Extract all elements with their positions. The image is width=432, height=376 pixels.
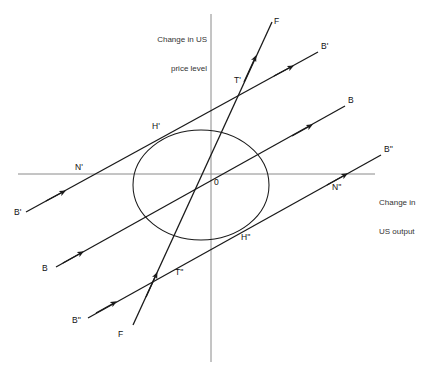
f-arrow-lower <box>146 275 156 297</box>
diagram-canvas <box>0 0 432 376</box>
label-b-dprime-bottom-left: B'' <box>72 315 81 325</box>
b-prime-arrow-right <box>274 67 291 76</box>
y-axis-label-line1: Change in US <box>139 35 207 45</box>
label-h-prime: H' <box>152 121 160 131</box>
y-axis-label-line2: price level <box>139 64 207 74</box>
economic-diagram: Change in US price level Change in US ou… <box>0 0 432 376</box>
x-axis-label: Change in US output <box>379 179 431 255</box>
label-b-bottom-left: B <box>42 263 48 273</box>
label-n-dprime: N'' <box>332 182 341 192</box>
b-arrow-right <box>292 126 310 136</box>
b-arrow-left <box>63 253 81 263</box>
label-n-prime: N' <box>75 162 83 172</box>
y-axis-label: Change in US price level <box>139 16 207 92</box>
label-b-top-right: B <box>348 95 354 105</box>
label-b-prime-bottom-left: B' <box>14 207 21 217</box>
label-t-dprime: T'' <box>175 267 183 277</box>
label-b-dprime-top-right: B'' <box>384 144 393 154</box>
label-f-top: F <box>274 16 279 26</box>
f-arrow-upper <box>244 58 255 82</box>
label-origin: 0 <box>214 177 219 187</box>
label-h-dprime: H'' <box>241 232 250 242</box>
b-prime-arrow-left <box>46 192 63 201</box>
label-b-prime-top-right: B' <box>321 41 328 51</box>
label-t-prime: T' <box>234 75 241 85</box>
x-axis-label-line2: US output <box>379 227 431 237</box>
label-f-bottom: F <box>118 329 123 339</box>
indifference-ellipse <box>133 130 269 240</box>
x-axis-label-line1: Change in <box>379 198 431 208</box>
b-dprime-arrow-left <box>96 303 114 313</box>
